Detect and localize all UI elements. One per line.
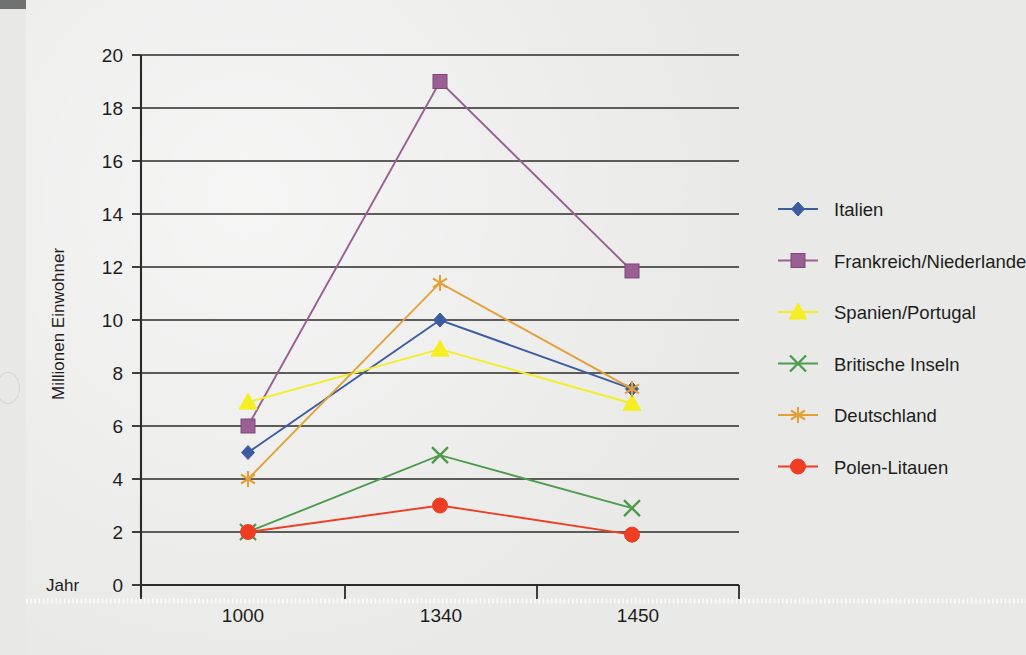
y-tick-label: 2 bbox=[112, 522, 123, 543]
legend-label: Deutschland bbox=[834, 405, 937, 426]
legend-label: Frankreich/Niederlande bbox=[834, 251, 1026, 272]
series-group bbox=[239, 75, 641, 543]
legend-item[interactable]: Italien bbox=[778, 199, 883, 220]
legend-group: ItalienFrankreich/NiederlandeSpanien/Por… bbox=[778, 199, 1026, 478]
legend-marker bbox=[791, 459, 806, 474]
legend-label: Britische Inseln bbox=[834, 354, 959, 375]
legend-item[interactable]: Britische Inseln bbox=[778, 354, 959, 375]
legend-label: Polen-Litauen bbox=[834, 457, 948, 478]
y-tick-label: 12 bbox=[102, 257, 123, 278]
series-polen-litauen bbox=[241, 498, 640, 542]
y-tick-label: 0 bbox=[112, 575, 123, 596]
series-frankreich-niederlande bbox=[241, 75, 639, 434]
y-tick-label: 4 bbox=[112, 469, 123, 490]
x-tick-label: 1000 bbox=[222, 605, 264, 626]
population-line-chart: 02468101214161820 100013401450 ItalienFr… bbox=[0, 0, 1026, 655]
data-point bbox=[624, 500, 640, 516]
y-tick-label: 16 bbox=[102, 151, 123, 172]
y-axis-ticks-group: 02468101214161820 bbox=[102, 45, 141, 596]
y-tick-label: 14 bbox=[102, 204, 124, 225]
series-line bbox=[248, 82, 632, 427]
data-point bbox=[432, 447, 448, 463]
data-point bbox=[433, 75, 447, 89]
y-tick-label: 20 bbox=[102, 45, 123, 66]
series-italien bbox=[242, 313, 639, 460]
chart-canvas: 02468101214161820 100013401450 ItalienFr… bbox=[0, 0, 1026, 655]
legend-item[interactable]: Polen-Litauen bbox=[778, 457, 948, 478]
legend-label: Italien bbox=[834, 199, 883, 220]
data-point bbox=[625, 527, 640, 542]
data-point bbox=[241, 419, 255, 433]
legend-item[interactable]: Frankreich/Niederlande bbox=[778, 251, 1026, 272]
y-tick-label: 6 bbox=[112, 416, 123, 437]
legend-marker bbox=[792, 202, 805, 216]
x-tick-label: 1340 bbox=[420, 605, 462, 626]
data-point bbox=[242, 446, 255, 460]
legend-item[interactable]: Spanien/Portugal bbox=[778, 302, 976, 323]
data-point bbox=[434, 313, 447, 327]
legend-marker bbox=[791, 254, 805, 268]
legend-item[interactable]: Deutschland bbox=[778, 405, 937, 426]
series-line bbox=[248, 455, 632, 532]
legend-marker bbox=[789, 303, 807, 319]
data-point bbox=[431, 340, 449, 356]
legend-label: Spanien/Portugal bbox=[834, 302, 976, 323]
data-point bbox=[241, 525, 256, 540]
y-tick-label: 18 bbox=[102, 98, 123, 119]
data-point bbox=[433, 498, 448, 513]
data-point bbox=[625, 264, 639, 278]
series-spanien-portugal bbox=[239, 340, 641, 410]
y-tick-label: 8 bbox=[112, 363, 123, 384]
y-axis-title: Millionen Einwohner bbox=[49, 248, 68, 400]
x-tick-label: 1450 bbox=[617, 605, 659, 626]
y-tick-label: 10 bbox=[102, 310, 123, 331]
x-axis-title: Jahr bbox=[46, 576, 79, 595]
x-axis-group: 100013401450 bbox=[26, 585, 1026, 626]
